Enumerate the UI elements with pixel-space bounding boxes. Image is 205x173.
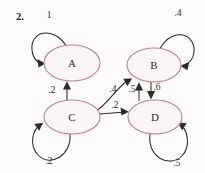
node-label-B: B <box>150 59 158 71</box>
edge-C-A <box>63 81 71 100</box>
edge-label-B-B: .4 <box>174 8 181 18</box>
diagram-canvas: 2. A B C D 1 .4 .2 .4 .2 .5 .6 .2 .5 <box>0 0 205 173</box>
edge-C-D-arrowhead <box>121 107 129 115</box>
edge-label-C-B: .4 <box>109 84 116 94</box>
problem-number: 2. <box>16 11 24 22</box>
edge-C-A-arrowhead <box>63 81 71 89</box>
edge-D-B <box>135 82 143 100</box>
edge-label-A-A: 1 <box>47 10 52 20</box>
edge-label-D-B: .5 <box>128 84 135 94</box>
node-label-C: C <box>68 111 76 123</box>
edge-D-B-arrowhead <box>135 82 143 90</box>
edge-label-D-D: .5 <box>173 158 180 168</box>
edge-B-D-arrowhead <box>147 91 155 99</box>
node-label-D: D <box>151 111 159 123</box>
edge-label-C-A: .2 <box>48 85 55 95</box>
diagram-graphics <box>0 0 205 173</box>
edge-B-B-arrowhead <box>181 62 190 70</box>
edge-label-B-D: .6 <box>153 82 160 92</box>
edge-label-C-D: .2 <box>111 100 118 110</box>
edge-label-C-C: .2 <box>45 156 52 166</box>
node-label-A: A <box>68 57 76 69</box>
